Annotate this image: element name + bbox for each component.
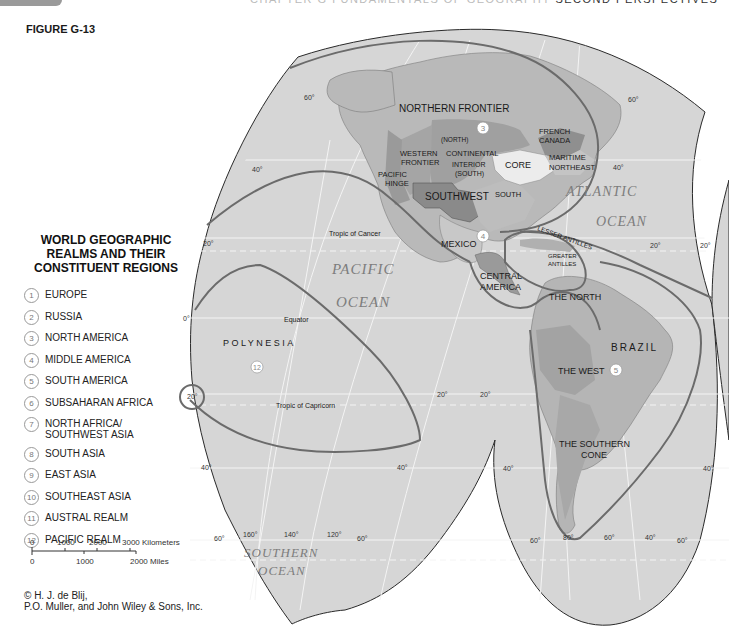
degree-label: 20° — [650, 242, 661, 249]
region-label-northern-frontier: NORTHERN FRONTIER — [399, 103, 509, 114]
realm-number-badge: 3 — [24, 331, 39, 346]
region-label-northeast: NORTHEAST — [549, 163, 596, 172]
tropic-of-capricorn-label: Tropic of Capricorn — [276, 402, 335, 410]
region-label-greater: GREATER — [548, 253, 577, 259]
degree-label: 20° — [437, 391, 448, 398]
realm-marker-3: 3 — [477, 122, 489, 134]
scale-bar: 0 1000 2000 3000 Kilometers 0 1000 2000 … — [30, 537, 190, 577]
realm-number-badge: 7 — [24, 417, 39, 432]
svg-text:0: 0 — [30, 557, 35, 566]
degree-label: 40° — [613, 164, 624, 171]
svg-text:1000: 1000 — [57, 538, 75, 547]
region-label-french: FRENCH — [539, 127, 570, 136]
region-label-south: SOUTH — [495, 190, 521, 199]
ocean-label-atlantic-2: OCEAN — [596, 214, 647, 229]
degree-label: 0° — [183, 315, 190, 322]
legend-item: 9EAST ASIA — [24, 469, 153, 483]
region-label-brazil: BRAZIL — [611, 342, 658, 353]
region-label-western: WESTERN — [400, 149, 438, 158]
realm-marker-5: 5 — [610, 364, 622, 376]
ocean-label-southern-2: OCEAN — [258, 563, 306, 578]
degree-label: 120° — [327, 531, 342, 538]
tropic-of-cancer-label: Tropic of Cancer — [329, 230, 381, 238]
region-label-america: AMERICA — [480, 282, 521, 292]
svg-text:5: 5 — [614, 366, 619, 375]
region-label-pacific: PACIFIC — [378, 170, 408, 179]
scale-bar-graphic: 0 1000 2000 3000 Kilometers 0 1000 2000 … — [30, 537, 190, 577]
ocean-label-pacific-2: OCEAN — [336, 294, 390, 310]
legend-item: 1EUROPE — [24, 289, 153, 303]
ocean-label-atlantic: ATLANTIC — [565, 184, 637, 199]
realm-marker-4: 4 — [477, 230, 489, 242]
realm-number-badge: 6 — [24, 396, 39, 411]
region-label-canada: CANADA — [539, 136, 570, 145]
degree-label: 60° — [628, 96, 639, 103]
region-label-frontier: FRONTIER — [401, 158, 440, 167]
degree-label: 40° — [703, 465, 714, 472]
realm-number-badge: 2 — [24, 310, 39, 325]
credit-line-2: P.O. Muller, and John Wiley & Sons, Inc. — [24, 601, 203, 612]
degree-label: 40° — [503, 465, 514, 472]
region-label-interior: INTERIOR — [452, 161, 485, 168]
region-label-central: CENTRAL — [480, 271, 522, 281]
legend-item: 11AUSTRAL REALM — [24, 512, 153, 526]
svg-text:3000 Kilometers: 3000 Kilometers — [122, 538, 180, 547]
svg-text:1000: 1000 — [76, 557, 94, 566]
region-label-southwest: SOUTHWEST — [425, 191, 489, 202]
realm-number-badge: 10 — [24, 490, 39, 505]
svg-text:0: 0 — [30, 538, 35, 547]
realm-number-badge: 11 — [24, 511, 39, 526]
legend-item: 6SUBSAHARAN AFRICA — [24, 397, 153, 411]
region-label-maritime: MARITIME — [549, 153, 586, 162]
degree-label: 20° — [187, 393, 198, 400]
region-label-interior-south: (SOUTH) — [455, 170, 484, 178]
region-label-cone: CONE — [581, 450, 607, 460]
legend-item: 4MIDDLE AMERICA — [24, 354, 153, 368]
realm-number-badge: 5 — [24, 374, 39, 389]
realm-number-badge: 8 — [24, 447, 39, 462]
ocean-label-southern: SOUTHERN — [244, 545, 319, 560]
region-label-hinge: HINGE — [385, 179, 409, 188]
degree-label: 20° — [203, 240, 214, 247]
degree-label: 40° — [645, 534, 656, 541]
region-label-southern: THE SOUTHERN — [559, 439, 630, 449]
realm-number-badge: 1 — [24, 288, 39, 303]
degree-label: 20° — [700, 242, 711, 249]
region-label-the-north: THE NORTH — [549, 292, 601, 302]
region-label-core: CORE — [505, 160, 531, 170]
svg-text:2000: 2000 — [89, 538, 107, 547]
svg-text:12: 12 — [253, 364, 261, 371]
degree-label: 160° — [243, 531, 258, 538]
degree-label: 40° — [252, 166, 263, 173]
equator-label: Equator — [284, 316, 309, 324]
legend-title: WORLD GEOGRAPHIC REALMS AND THEIR CONSTI… — [20, 233, 192, 275]
degree-label: 40° — [397, 464, 408, 471]
realm-marker-12: 12 — [251, 361, 263, 373]
legend-item: 3NORTH AMERICA — [24, 332, 153, 346]
svg-text:4: 4 — [481, 232, 486, 241]
region-label-antilles: ANTILLES — [548, 261, 576, 267]
realm-number-badge: 4 — [24, 353, 39, 368]
degree-label: 80° — [563, 534, 574, 541]
region-label-the-west: THE WEST — [558, 366, 605, 376]
svg-text:3: 3 — [481, 124, 486, 133]
degree-label: 60° — [677, 537, 688, 544]
legend-item: 5SOUTH AMERICA — [24, 375, 153, 389]
realm-number-badge: 9 — [24, 468, 39, 483]
degree-label: 60° — [357, 535, 368, 542]
degree-label: 60° — [530, 537, 541, 544]
credit-line-1: © H. J. de Blij, — [24, 590, 203, 601]
svg-text:2000 Miles: 2000 Miles — [130, 557, 169, 566]
legend-item: 2RUSSIA — [24, 311, 153, 325]
ocean-label-pacific: PACIFIC — [331, 261, 395, 277]
legend-item: 7NORTH AFRICA/ SOUTHWEST ASIA — [24, 418, 153, 440]
legend-item: 10SOUTHEAST ASIA — [24, 491, 153, 505]
degree-label: 40° — [201, 464, 212, 471]
degree-label: 140° — [284, 531, 299, 538]
degree-label: 20° — [480, 391, 491, 398]
region-label-polynesia: POLYNESIA — [223, 338, 296, 348]
degree-label: 60° — [604, 534, 615, 541]
region-label-continental: CONTINENTAL — [446, 149, 498, 158]
degree-label: 60° — [304, 94, 315, 101]
degree-label: 60° — [214, 535, 225, 542]
